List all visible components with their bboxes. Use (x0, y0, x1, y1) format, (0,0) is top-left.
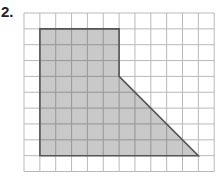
grid-diagram (0, 0, 218, 178)
